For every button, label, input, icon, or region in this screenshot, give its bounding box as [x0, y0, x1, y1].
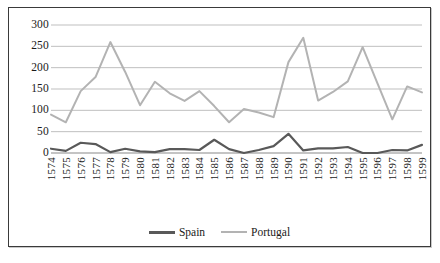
x-tick-label: 1591 [297, 157, 309, 180]
x-tick-label: 1589 [268, 157, 280, 180]
chart-container: 050100150200250300 157415751576157715781… [8, 7, 431, 247]
x-tick-label: 1580 [134, 157, 146, 180]
x-tick-label: 1594 [342, 157, 354, 180]
chart-legend: SpainPortugal [9, 226, 430, 238]
x-tick-label: 1575 [60, 157, 72, 180]
x-tick-label: 1593 [327, 157, 339, 180]
x-tick-label: 1577 [90, 157, 102, 180]
x-tick-label: 1578 [104, 157, 116, 180]
x-tick-label: 1588 [253, 157, 265, 180]
x-tick-label: 1596 [371, 157, 383, 180]
x-axis: 1574157515761577157815791580158115821583… [9, 8, 430, 246]
legend-label: Portugal [251, 226, 290, 238]
x-tick-label: 1599 [416, 157, 428, 180]
x-tick-label: 1586 [223, 157, 235, 180]
x-tick-label: 1581 [149, 157, 161, 180]
x-tick-label: 1597 [386, 157, 398, 180]
x-tick-label: 1592 [312, 157, 324, 180]
x-tick-label: 1582 [164, 157, 176, 180]
legend-item-portugal[interactable]: Portugal [221, 226, 290, 238]
x-tick-label: 1590 [282, 157, 294, 180]
x-tick-label: 1587 [238, 157, 250, 180]
legend-label: Spain [179, 226, 205, 238]
legend-swatch-icon [221, 231, 247, 234]
x-tick-label: 1585 [208, 157, 220, 180]
x-tick-label: 1595 [357, 157, 369, 180]
x-tick-label: 1583 [179, 157, 191, 180]
legend-swatch-icon [149, 231, 175, 234]
x-tick-label: 1584 [193, 157, 205, 180]
x-tick-label: 1576 [75, 157, 87, 180]
x-tick-label: 1598 [401, 157, 413, 180]
x-tick-label: 1574 [45, 157, 57, 180]
x-tick-label: 1579 [119, 157, 131, 180]
legend-item-spain[interactable]: Spain [149, 226, 205, 238]
